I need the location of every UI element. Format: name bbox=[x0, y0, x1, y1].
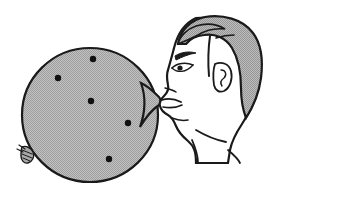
ear bbox=[213, 63, 231, 92]
balloon-body bbox=[22, 48, 158, 182]
spot-top bbox=[90, 56, 96, 62]
illustration-canvas: Person blowing up a spotted balloon Blac… bbox=[0, 0, 338, 205]
spot-upper-left bbox=[55, 75, 61, 81]
spot-center bbox=[88, 98, 94, 104]
spot-bottom bbox=[106, 156, 112, 162]
spot-right bbox=[125, 120, 131, 126]
scene-svg bbox=[0, 0, 338, 205]
